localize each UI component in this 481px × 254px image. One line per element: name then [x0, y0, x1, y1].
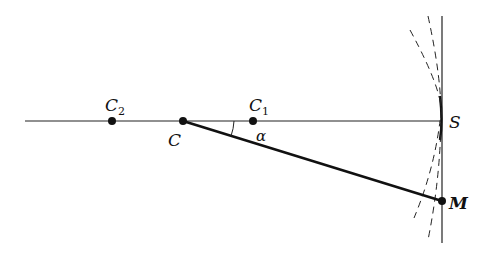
label-m: M: [448, 193, 469, 213]
dashed-arc-outer: [428, 16, 441, 240]
point-c1: [249, 117, 257, 125]
dashed-arc-inner: [410, 30, 441, 218]
point-c2: [108, 117, 116, 125]
segment-cm: [183, 121, 442, 201]
label-c: C: [168, 130, 181, 150]
angle-arc-alpha: [231, 121, 234, 136]
point-c: [179, 117, 187, 125]
circle-geometry-diagram: C2 C C1 α S M: [0, 0, 481, 254]
point-m: [438, 197, 446, 205]
label-s: S: [449, 112, 461, 132]
label-alpha: α: [256, 127, 266, 145]
label-c2: C2: [105, 95, 125, 118]
label-c1: C1: [249, 95, 269, 118]
